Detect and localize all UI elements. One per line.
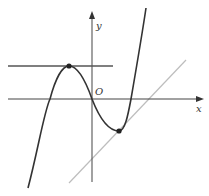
cubic-curve <box>28 8 146 188</box>
tangent-point <box>116 128 121 133</box>
x-axis-arrow-icon <box>196 96 204 102</box>
slanted-tangent-line <box>69 60 186 183</box>
y-axis-label: y <box>95 20 102 31</box>
y-axis-arrow-icon <box>89 11 95 19</box>
cubic-graph-diagram: y O x <box>0 0 209 196</box>
x-axis-label: x <box>196 103 202 114</box>
diagram-svg: y O x <box>0 0 209 196</box>
local-maximum-point <box>66 63 71 68</box>
origin-label: O <box>95 86 103 97</box>
